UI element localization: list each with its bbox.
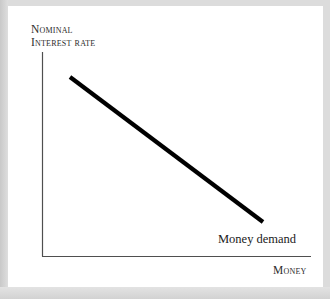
- money-demand-curve-label: Money demand: [218, 232, 296, 247]
- y-axis-label: Nominal Interest rate: [31, 23, 95, 48]
- page-edge-right: [323, 0, 330, 299]
- y-axis-label-line2: Interest rate: [31, 36, 95, 49]
- money-demand-curve: [70, 77, 263, 222]
- chart-plot-area: Nominal Interest rate Money Money demand: [8, 6, 323, 287]
- page-edge-left: [0, 0, 8, 299]
- figure-caption-cropped: [10, 292, 160, 299]
- chart-panel: Nominal Interest rate Money Money demand: [8, 6, 323, 287]
- figure-root: Nominal Interest rate Money Money demand: [0, 0, 330, 299]
- x-axis-label-text: Money: [273, 264, 306, 276]
- y-axis-label-line1: Nominal: [31, 23, 95, 36]
- x-axis-label: Money: [273, 264, 306, 276]
